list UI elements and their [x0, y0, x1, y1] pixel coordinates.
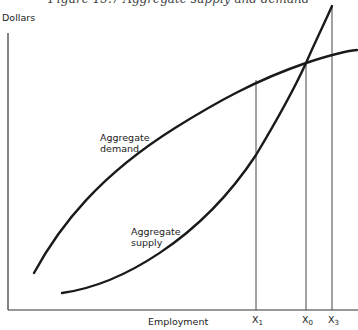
aggregate-demand-curve: [34, 50, 357, 273]
tick-label-x1: X1: [252, 314, 263, 329]
aggregate-supply-demand-figure: Figure 15.7 Aggregate supply and demand …: [0, 0, 358, 330]
y-axis-label: Dollars: [2, 12, 35, 23]
aggregate-supply-label: Aggregate supply: [131, 226, 181, 248]
aggregate-demand-label: Aggregate demand: [100, 132, 150, 154]
tick-label-x0: X0: [302, 314, 313, 329]
tick-label-x3: X3: [328, 314, 339, 329]
diagram-canvas: [0, 0, 358, 330]
x-axis-label: Employment: [148, 316, 208, 327]
